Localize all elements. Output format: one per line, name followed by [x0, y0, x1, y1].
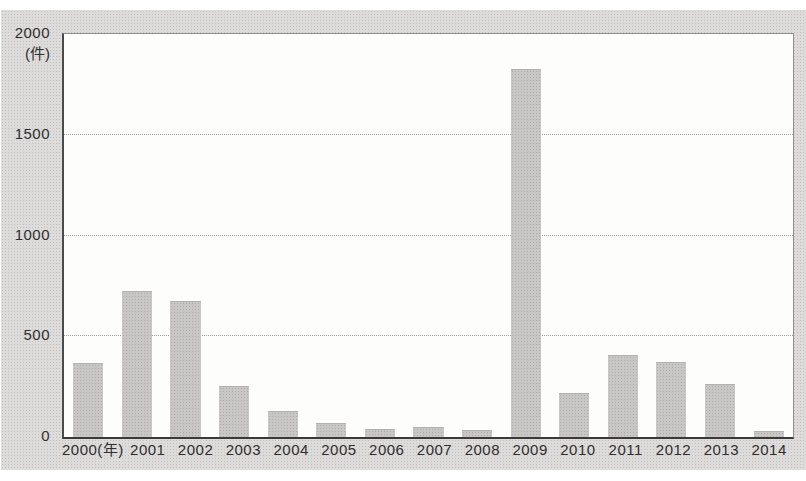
- y-axis-unit-label: (件): [25, 45, 50, 63]
- bar-slot: [307, 34, 356, 437]
- bar-slot: [647, 34, 696, 437]
- bar-slot: [210, 34, 259, 437]
- x-tick-label: 2001: [124, 441, 172, 461]
- bar-slot: [599, 34, 648, 437]
- x-tick-label: 2006: [363, 441, 411, 461]
- x-tick-label: 2011: [602, 441, 650, 461]
- bar-slot: [550, 34, 599, 437]
- bar: [754, 431, 784, 437]
- bar-slot: [453, 34, 502, 437]
- bar-slot: [696, 34, 745, 437]
- bars: [64, 34, 793, 437]
- bar: [559, 393, 589, 437]
- bar-slot: [258, 34, 307, 437]
- bar-slot: [356, 34, 405, 437]
- bar-slot: [113, 34, 162, 437]
- bar: [462, 430, 492, 437]
- bar: [511, 69, 541, 437]
- bar-slot: [64, 34, 113, 437]
- bar: [413, 427, 443, 437]
- x-tick-label: 2002: [172, 441, 220, 461]
- bar: [365, 429, 395, 437]
- bar-slot: [744, 34, 793, 437]
- y-tick-label: 1000: [15, 226, 50, 244]
- plot-area: [62, 33, 794, 439]
- x-tick-label: 2012: [650, 441, 698, 461]
- y-tick-label: 0: [41, 427, 50, 445]
- bar-slot: [404, 34, 453, 437]
- bar: [268, 411, 298, 437]
- y-tick-label: 2000: [15, 24, 50, 42]
- bar: [705, 384, 735, 437]
- x-tick-label: 2013: [697, 441, 745, 461]
- x-axis: 2000(年)200120022003200420052006200720082…: [62, 441, 793, 461]
- bar: [219, 386, 249, 437]
- x-tick-label: 2004: [267, 441, 315, 461]
- chart-figure: (件) 0500100015002000 2000(年)200120022003…: [0, 0, 806, 481]
- bar: [73, 363, 103, 437]
- x-tick-label: 2000(年): [62, 441, 124, 461]
- bar: [608, 355, 638, 437]
- x-tick-label: 2010: [554, 441, 602, 461]
- bar: [170, 301, 200, 437]
- bar-slot: [501, 34, 550, 437]
- x-tick-label: 2014: [745, 441, 793, 461]
- y-tick-label: 1500: [15, 125, 50, 143]
- y-tick-label: 500: [23, 326, 50, 344]
- bar: [122, 291, 152, 437]
- x-tick-label: 2005: [315, 441, 363, 461]
- x-tick-label: 2009: [506, 441, 554, 461]
- x-tick-label: 2007: [411, 441, 459, 461]
- bar: [316, 423, 346, 437]
- bar: [656, 362, 686, 437]
- y-axis: (件) 0500100015002000: [0, 33, 56, 436]
- x-tick-label: 2003: [219, 441, 267, 461]
- bar-slot: [161, 34, 210, 437]
- x-tick-label: 2008: [458, 441, 506, 461]
